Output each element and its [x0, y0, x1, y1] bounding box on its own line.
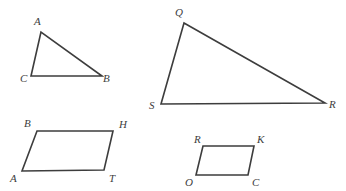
vertex-label-parallelogram-bhta-t: T [109, 173, 115, 184]
vertex-label-parallelogram-rkco-c: C [252, 177, 259, 188]
vertex-label-parallelogram-bhta-h: H [119, 119, 127, 130]
vertex-label-parallelogram-bhta-a: A [10, 173, 17, 184]
triangle-qsr [161, 23, 325, 104]
vertex-label-triangle-acb-b: B [103, 73, 110, 84]
vertex-label-triangle-acb-c: C [20, 73, 27, 84]
geometry-figure-canvas: ACBQSRBHTARKCO [0, 0, 346, 191]
parallelogram-bhta [22, 131, 113, 171]
vertex-label-triangle-qsr-r: R [329, 99, 336, 110]
vertex-label-parallelogram-rkco-o: O [185, 177, 193, 188]
shape-path-group [22, 23, 325, 175]
vertex-label-parallelogram-rkco-k: K [257, 134, 264, 145]
shapes-layer [0, 0, 346, 191]
triangle-acb [31, 32, 102, 76]
vertex-label-triangle-qsr-q: Q [175, 7, 183, 18]
vertex-label-triangle-acb-a: A [34, 16, 41, 27]
vertex-label-triangle-qsr-s: S [149, 100, 155, 111]
vertex-label-parallelogram-bhta-b: B [24, 118, 31, 129]
vertex-label-parallelogram-rkco-r: R [194, 134, 201, 145]
parallelogram-rkco [196, 146, 254, 175]
